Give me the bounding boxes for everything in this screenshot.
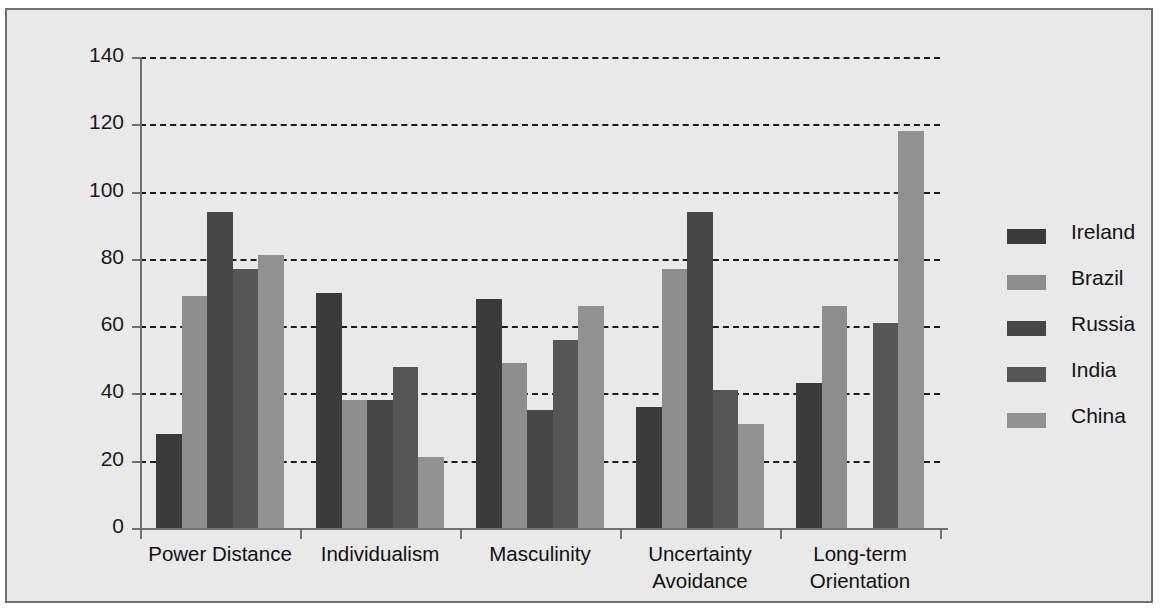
gridline xyxy=(140,192,940,194)
legend-swatch-icon xyxy=(1007,275,1046,290)
y-axis-line xyxy=(140,57,142,528)
bar xyxy=(796,383,822,528)
bar xyxy=(738,424,764,528)
x-axis-category-label: Power Distance xyxy=(140,540,300,567)
bar xyxy=(367,400,393,528)
legend-label: Russia xyxy=(1071,312,1135,336)
bar xyxy=(662,269,688,528)
legend-label: Brazil xyxy=(1071,266,1124,290)
x-tick-mark xyxy=(620,528,622,539)
bar xyxy=(873,323,899,528)
legend-swatch-icon xyxy=(1007,413,1046,428)
bar xyxy=(578,306,604,528)
y-tick-mark xyxy=(132,192,142,194)
gridline xyxy=(140,57,940,59)
bar xyxy=(527,410,553,528)
bar xyxy=(233,269,259,528)
gridline xyxy=(140,124,940,126)
y-tick-mark xyxy=(132,461,142,463)
x-axis-category-label: Individualism xyxy=(300,540,460,567)
bar xyxy=(713,390,739,528)
bar xyxy=(553,340,579,528)
x-axis-category-label: Long-term Orientation xyxy=(780,540,940,594)
legend-label: India xyxy=(1071,358,1117,382)
x-tick-mark xyxy=(940,528,942,539)
bar xyxy=(418,457,444,528)
bar xyxy=(898,131,924,528)
bar xyxy=(156,434,182,528)
legend-swatch-icon xyxy=(1007,321,1046,336)
legend-label: China xyxy=(1071,404,1126,428)
legend-swatch-icon xyxy=(1007,367,1046,382)
x-tick-mark xyxy=(780,528,782,539)
y-tick-mark xyxy=(132,259,142,261)
x-axis-line xyxy=(132,528,948,530)
bar xyxy=(636,407,662,528)
legend-label: Ireland xyxy=(1071,220,1135,244)
y-tick-mark xyxy=(132,393,142,395)
bar xyxy=(822,306,848,528)
y-tick-label: 0 xyxy=(64,514,124,538)
bar xyxy=(476,299,502,528)
y-tick-label: 140 xyxy=(64,43,124,67)
y-tick-mark xyxy=(132,124,142,126)
x-axis-category-label: Masculinity xyxy=(460,540,620,567)
y-tick-label: 20 xyxy=(64,447,124,471)
bar xyxy=(258,255,284,528)
x-axis-category-label: Uncertainty Avoidance xyxy=(620,540,780,594)
y-tick-label: 120 xyxy=(64,110,124,134)
y-tick-label: 60 xyxy=(64,312,124,336)
x-tick-mark xyxy=(300,528,302,539)
y-tick-label: 40 xyxy=(64,379,124,403)
bar xyxy=(207,212,233,528)
bar xyxy=(502,363,528,528)
chart-frame: 020406080100120140 Power DistanceIndivid… xyxy=(5,8,1153,603)
x-tick-mark xyxy=(140,528,142,539)
bar xyxy=(316,293,342,529)
y-tick-mark xyxy=(132,57,142,59)
bar xyxy=(182,296,208,528)
bar xyxy=(393,367,419,528)
y-tick-mark xyxy=(132,326,142,328)
x-tick-mark xyxy=(460,528,462,539)
y-tick-label: 100 xyxy=(64,178,124,202)
legend-swatch-icon xyxy=(1007,229,1046,244)
y-tick-label: 80 xyxy=(64,245,124,269)
bar xyxy=(687,212,713,528)
bar xyxy=(342,400,368,528)
